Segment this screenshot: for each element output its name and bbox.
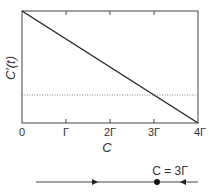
derivative-line — [22, 11, 198, 123]
arrow-left-icon — [180, 179, 186, 185]
equilibrium-label: C = 3Γ — [152, 164, 188, 178]
x-tick-4: 4Γ — [194, 126, 206, 138]
x-axis-label: C — [102, 140, 112, 155]
x-tick-3: 3Γ — [148, 126, 160, 138]
x-tick-1: Γ — [63, 126, 69, 138]
chart: 0 Γ 2Γ 3Γ 4Γ C C′(t) C = 3Γ — [0, 0, 215, 192]
arrow-right-icon — [92, 179, 98, 185]
x-tick-0: 0 — [19, 126, 25, 138]
y-axis-label: C′(t) — [3, 56, 18, 80]
x-tick-2: 2Γ — [104, 126, 116, 138]
equilibrium-point — [154, 179, 160, 185]
